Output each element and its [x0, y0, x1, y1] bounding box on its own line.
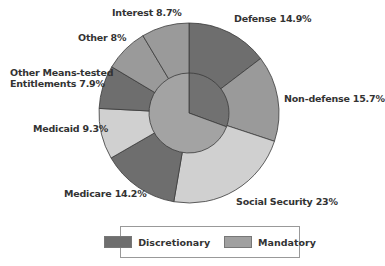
- label-medicaid: Medicaid 9.3%: [33, 123, 108, 134]
- label-nondefense: Non-defense 15.7%: [284, 93, 385, 104]
- legend-swatch-mandatory: [224, 236, 252, 248]
- label-medicare: Medicare 14.2%: [64, 188, 147, 199]
- label-social-security: Social Security 23%: [236, 196, 338, 207]
- label-other-means-tested: Other Means-tested Entitlements 7.9%: [10, 67, 96, 89]
- label-other-means-line2: Entitlements 7.9%: [10, 78, 96, 89]
- inner-ring: [149, 73, 229, 153]
- label-interest: Interest 8.7%: [112, 7, 182, 18]
- legend-label-mandatory: Mandatory: [258, 237, 316, 248]
- legend-item-mandatory: Mandatory: [224, 236, 316, 248]
- chart-legend: Discretionary Mandatory: [120, 226, 300, 258]
- legend-swatch-discretionary: [104, 236, 132, 248]
- label-other: Other 8%: [78, 32, 126, 43]
- legend-item-discretionary: Discretionary: [104, 236, 210, 248]
- label-other-means-line1: Other Means-tested: [10, 67, 96, 78]
- legend-label-discretionary: Discretionary: [138, 237, 210, 248]
- label-defense: Defense 14.9%: [234, 13, 311, 24]
